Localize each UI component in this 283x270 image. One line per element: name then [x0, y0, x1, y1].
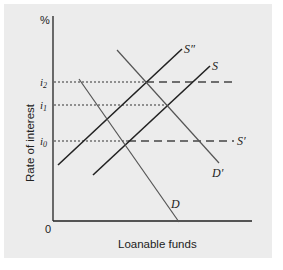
i2-label: i2	[40, 76, 47, 90]
origin-label: 0	[45, 223, 51, 235]
d-label: D	[170, 197, 180, 211]
i1-label: i1	[40, 99, 47, 113]
s-double-prime-curve	[58, 49, 182, 165]
i0-label: i0	[40, 135, 47, 149]
s-prime-label: S′	[237, 134, 246, 148]
loanable-funds-chart: % i2 i1 i0 0 Rate of interest Loanable f…	[0, 0, 283, 270]
s-double-prime-label: S″	[184, 42, 196, 56]
y-axis-title: Rate of interest	[24, 103, 36, 182]
s-label: S	[212, 59, 218, 73]
d-prime-label: D′	[211, 166, 224, 180]
percent-label: %	[40, 14, 50, 26]
d-curve	[79, 79, 179, 222]
d-prime-curve	[117, 50, 219, 163]
x-axis-title: Loanable funds	[118, 238, 197, 250]
